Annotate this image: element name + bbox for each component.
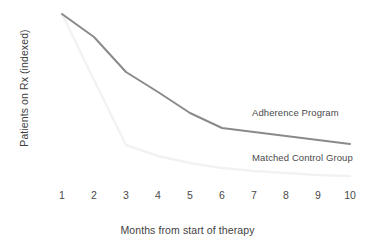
y-axis-title: Patients on Rx (indexed) [18, 8, 32, 168]
plot-area [0, 0, 375, 249]
x-tick-label-9: 9 [315, 189, 321, 201]
x-tick-label-4: 4 [155, 189, 161, 201]
x-tick-label-10: 10 [344, 189, 356, 201]
series-label-adherence-program: Adherence Program [252, 107, 339, 118]
x-tick-label-8: 8 [283, 189, 289, 201]
series-label-matched-control-group: Matched Control Group [252, 152, 353, 163]
x-axis-tick-labels: 12345678910 [0, 189, 375, 203]
x-tick-label-6: 6 [219, 189, 225, 201]
x-tick-label-7: 7 [251, 189, 257, 201]
x-tick-label-3: 3 [123, 189, 129, 201]
x-axis-title: Months from start of therapy [0, 224, 375, 236]
x-tick-label-5: 5 [187, 189, 193, 201]
x-tick-label-1: 1 [59, 189, 65, 201]
series-line-adherence-program [62, 14, 350, 144]
line-chart: Patients on Rx (indexed) 12345678910 Mon… [0, 0, 375, 249]
x-tick-label-2: 2 [91, 189, 97, 201]
